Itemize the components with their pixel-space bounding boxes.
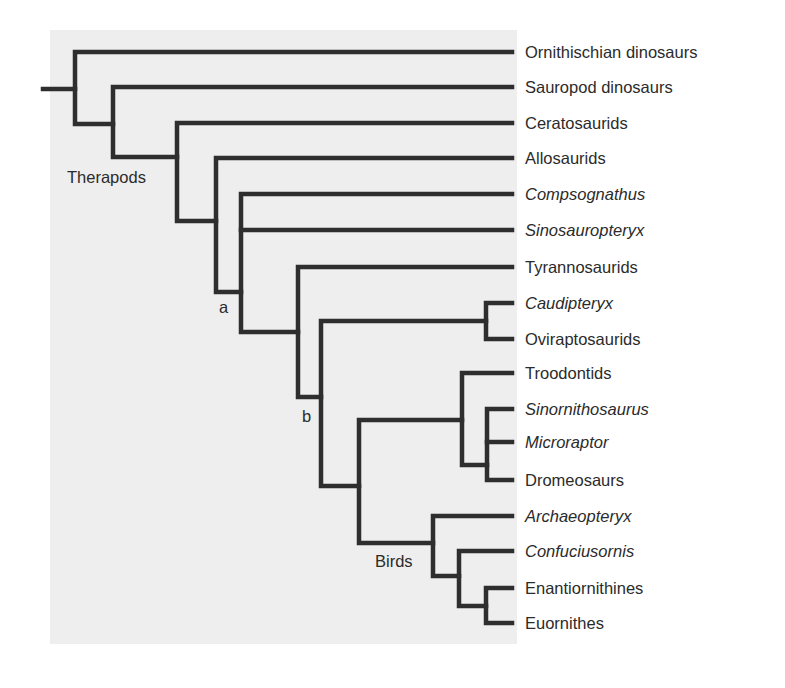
taxon-label-troodontids: Troodontids: [525, 363, 612, 383]
node-paraves: [359, 420, 462, 543]
taxon-label-enantiornithines: Enantiornithines: [525, 578, 643, 598]
cladogram-figure: Ornithischian dinosaurs Sauropod dinosau…: [0, 0, 785, 688]
taxon-label-sinornithosaurus: Sinornithosaurus: [525, 399, 649, 419]
taxon-label-microraptor: Microraptor: [525, 432, 608, 452]
node-oviraptorosauria: [486, 303, 512, 339]
node-tyrannosaur-split: [298, 267, 512, 397]
phylogenetic-tree-branches: [0, 0, 785, 688]
node-tetanurae: [216, 158, 512, 292]
taxon-label-dromeosaurs: Dromeosaurs: [525, 470, 624, 490]
taxon-label-compsognathus: Compsognathus: [525, 184, 645, 204]
taxon-label-confuciusornis: Confuciusornis: [525, 541, 634, 561]
taxon-label-ceratosaurids: Ceratosaurids: [525, 113, 628, 133]
node-birds: [433, 516, 512, 576]
taxon-label-tyrannosaurids: Tyrannosaurids: [525, 257, 638, 277]
taxon-label-oviraptosaurids: Oviraptosaurids: [525, 329, 641, 349]
node-ornithothoraces: [486, 588, 512, 623]
node-a: [241, 194, 512, 332]
clade-label-birds: Birds: [375, 551, 413, 571]
taxon-label-ornithischian-dinosaurs: Ornithischian dinosaurs: [525, 42, 697, 62]
node-label-b: b: [302, 406, 311, 426]
node-therapods: [177, 123, 512, 221]
taxon-label-caudipteryx: Caudipteryx: [525, 293, 613, 313]
taxon-label-sinosauropteryx: Sinosauropteryx: [525, 220, 644, 240]
taxon-label-allosaurids: Allosaurids: [525, 148, 606, 168]
taxon-label-euornithes: Euornithes: [525, 613, 604, 633]
node-label-a: a: [219, 297, 228, 317]
taxon-label-sauropod-dinosaurs: Sauropod dinosaurs: [525, 77, 673, 97]
clade-label-therapods: Therapods: [67, 167, 146, 187]
taxon-label-archaeopteryx: Archaeopteryx: [525, 506, 631, 526]
node-dromaeosauridae: [487, 409, 512, 480]
